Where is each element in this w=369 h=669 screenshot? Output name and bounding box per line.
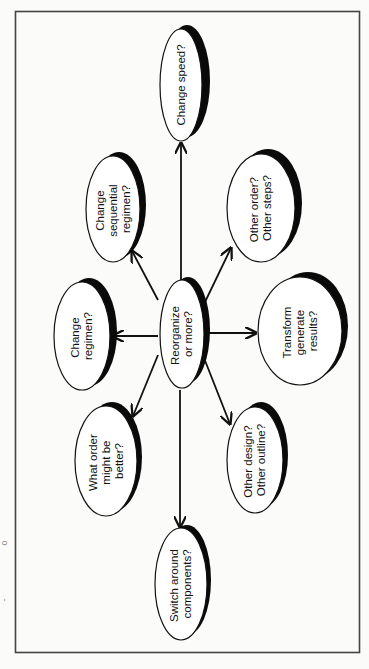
node-label: Switch around components? — [168, 546, 193, 622]
edge-to-what-order-better — [133, 355, 158, 416]
edge-to-other-order-steps — [205, 248, 231, 302]
node-label: Change speed? — [175, 44, 187, 125]
node-label: Change sequential regimen? — [94, 181, 132, 237]
node-change-sequential-regimen: Change sequential regimen? — [86, 152, 146, 262]
diagram-canvas: Change speed? Change sequential regimen?… — [0, 0, 369, 669]
edge-to-other-design-outline — [204, 358, 230, 424]
node-center-reorganize: Reorganize or more? — [160, 277, 210, 388]
node-change-speed: Change speed? — [160, 25, 210, 141]
node-what-order-better: What order might be better? — [75, 402, 142, 516]
node-label: Transform generate results? — [281, 303, 319, 358]
node-transform-generate-results: Transform generate results? — [258, 272, 348, 385]
node-other-order-steps: Other order? Other steps? — [227, 149, 302, 262]
node-switch-around-components: Switch around components? — [155, 525, 211, 640]
margin-mark: o — [0, 540, 9, 545]
node-label: Reorganize or more? — [169, 303, 194, 365]
node-other-design-outline: Other design? Other outline? — [227, 402, 288, 513]
node-label: Other order? Other steps? — [248, 174, 273, 242]
edge-to-change-sequential-regimen — [132, 251, 158, 300]
node-label: Change regimen? — [69, 312, 94, 360]
node-change-regimen: Change regimen? — [54, 278, 117, 390]
margin-mark: - — [0, 599, 9, 602]
node-label: Other design? Other outline? — [242, 422, 267, 497]
